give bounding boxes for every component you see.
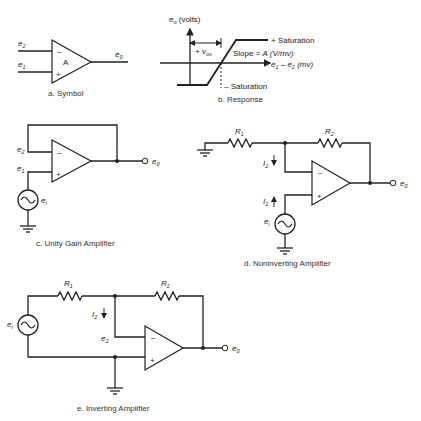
e0-label: e0 (152, 157, 160, 167)
inverting-input-wire (115, 296, 145, 337)
minus-sign: – (151, 333, 156, 342)
i1-label: I1 (263, 197, 268, 207)
panel-inverting: – + R1 R2 I2 e2 ei e0 e. Inverting Ampli… (7, 279, 240, 413)
r2-label: R2 (161, 279, 170, 289)
ground-icon (277, 248, 293, 254)
resistor-r2-icon (318, 139, 342, 147)
ground-icon (107, 388, 123, 394)
output-terminal-icon (142, 158, 148, 164)
plus-sign: + (317, 192, 322, 201)
e0-label: e0 (232, 344, 240, 354)
plus-sign: + (56, 70, 61, 79)
r2-label: R2 (325, 127, 334, 137)
e0-label: e0 (115, 50, 123, 60)
output-terminal-icon (390, 180, 396, 186)
caption-response: b. Response (218, 95, 263, 104)
positive-saturation-label: + Saturation (271, 36, 314, 45)
panel-symbol: – + A e2 e1 e0 a. Symbol (18, 39, 128, 98)
input-wire (28, 296, 58, 315)
ei-label: ei (7, 320, 13, 330)
gain-label: A (63, 58, 69, 67)
slope-label: Slope = A (V/mv) (233, 49, 294, 58)
caption-inverting: e. Inverting Amplifier (77, 404, 150, 413)
e2-label: e2 (101, 334, 109, 344)
inverting-input-wire (285, 143, 312, 172)
minus-sign: – (57, 148, 62, 157)
resistor-r2-icon (155, 292, 179, 300)
resistor-r1-icon (228, 139, 252, 147)
panel-response: eo (volts) + vos + Saturation Slope = A … (160, 15, 314, 104)
noninverting-input-wire (28, 335, 145, 357)
resistor-r1-icon (58, 292, 82, 300)
minus-sign: – (318, 168, 323, 177)
minus-sign: – (57, 47, 62, 56)
offset-label: + vos (195, 47, 212, 57)
panel-noninverting: – + R1 R2 I2 I1 ei e0 d. Noninverting Am… (197, 127, 408, 268)
output-terminal-icon (222, 345, 228, 351)
ground-icon (197, 150, 213, 156)
opamp-diagram: – + A e2 e1 e0 a. Symbol eo (volts) + vo… (0, 0, 421, 421)
e1-label: e1 (18, 60, 26, 70)
caption-unity-gain: c. Unity Gain Amplifier (36, 239, 115, 248)
e2-label: e2 (18, 39, 26, 49)
plus-sign: + (150, 356, 155, 365)
i2-label: I2 (92, 310, 97, 320)
caption-symbol: a. Symbol (48, 89, 84, 98)
caption-noninverting: d. Noninverting Amplifier (244, 259, 331, 268)
ground-wire (205, 143, 228, 150)
r1-label: R1 (235, 127, 244, 137)
input-wire (28, 172, 52, 190)
i2-label: I2 (263, 159, 268, 169)
ei-label: ei (264, 217, 270, 227)
negative-saturation-label: – Saturation (224, 82, 267, 91)
e0-label: e0 (400, 179, 408, 189)
e1-label: e1 (17, 164, 25, 174)
ground-icon (20, 226, 36, 232)
plus-sign: + (56, 170, 61, 179)
node-dot (201, 346, 205, 350)
ei-label: ei (41, 196, 47, 206)
feedback-wire (179, 296, 203, 348)
r1-label: R1 (64, 279, 73, 289)
node-dot (368, 181, 372, 185)
feedback-wire (342, 143, 370, 183)
panel-unity-gain: – + e2 e1 ei e0 c. Unity Gain Amplifier (17, 125, 160, 248)
node-dot (115, 159, 119, 163)
x-axis-label: e1 – e2 (mv) (271, 60, 313, 70)
y-axis-label: eo (volts) (169, 15, 201, 25)
e2-label: e2 (17, 145, 25, 155)
noninverting-input-wire (285, 195, 312, 214)
